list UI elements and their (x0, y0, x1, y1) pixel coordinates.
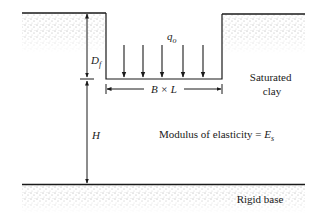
load-arrows (124, 45, 203, 77)
foundation-diagram: qo B × L Df H Saturated clay Modulus of … (0, 0, 325, 221)
excavation-outline (106, 13, 222, 79)
width-label: B × L (151, 83, 177, 95)
thickness-label: H (91, 129, 101, 141)
left-ground-soil (22, 13, 106, 53)
load-label: qo (167, 30, 177, 45)
depth-label: Df (90, 54, 103, 69)
modulus-label: Modulus of elasticity = Es (159, 128, 274, 143)
right-ground-soil (222, 14, 305, 54)
rigid-base-label: Rigid base (237, 193, 284, 205)
soil-type-label: Saturated clay (250, 71, 294, 97)
